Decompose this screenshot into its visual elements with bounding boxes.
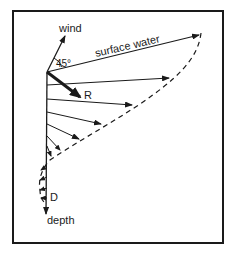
wind-label: wind — [58, 22, 82, 34]
ekman-spiral-diagram: wind 45° surface water R D depth — [0, 0, 234, 254]
resultant-label: R — [84, 89, 92, 101]
velocity-vector — [47, 136, 60, 150]
ekman-depth-label: D — [50, 191, 58, 203]
velocity-vector — [47, 112, 101, 124]
depth-label: depth — [47, 214, 75, 226]
depth-axis — [46, 72, 47, 214]
velocity-vector — [47, 78, 169, 85]
velocity-vector — [47, 146, 51, 156]
surface-water-label: surface water — [94, 32, 161, 59]
angle-label: 45° — [56, 58, 71, 69]
velocity-vector — [47, 124, 79, 139]
